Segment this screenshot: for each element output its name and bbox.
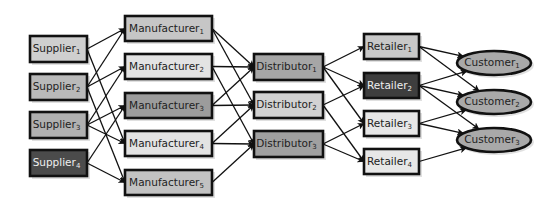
node-label: Retailer4 bbox=[367, 155, 412, 169]
supply-chain-diagram: Supplier1Supplier2Supplier3Supplier4Manu… bbox=[0, 0, 560, 209]
node-label: Customer3 bbox=[464, 133, 519, 147]
edge-s1-to-m1 bbox=[87, 29, 125, 50]
edge-r3-to-c3 bbox=[419, 124, 463, 134]
node-retailer-2: Retailer2 bbox=[364, 73, 422, 101]
edge-m4-to-d3 bbox=[212, 144, 254, 145]
nodes-layer: Supplier1Supplier2Supplier3Supplier4Manu… bbox=[30, 16, 534, 198]
node-supplier-1: Supplier1 bbox=[30, 36, 90, 65]
node-label: Distributor3 bbox=[256, 137, 316, 151]
edge-d2-to-r2 bbox=[323, 86, 364, 106]
node-label: Supplier2 bbox=[33, 80, 81, 94]
node-label: Manufacturer5 bbox=[129, 176, 204, 190]
node-label: Retailer2 bbox=[367, 79, 412, 93]
edge-r3-to-c2 bbox=[419, 110, 466, 124]
edge-s2-to-m1 bbox=[87, 29, 125, 88]
node-label: Supplier4 bbox=[33, 156, 81, 170]
node-customer-2: Customer2 bbox=[457, 90, 534, 117]
node-manufacturer-1: Manufacturer1 bbox=[125, 16, 215, 44]
edge-m1-to-d1 bbox=[212, 29, 254, 68]
node-distributor-3: Distributor3 bbox=[254, 131, 326, 160]
node-manufacturer-4: Manufacturer4 bbox=[125, 131, 215, 159]
edge-m3-to-d2 bbox=[212, 105, 254, 106]
node-label: Distributor1 bbox=[256, 60, 316, 74]
node-supplier-4: Supplier4 bbox=[30, 150, 90, 179]
node-distributor-2: Distributor2 bbox=[254, 92, 326, 121]
edge-s4-to-m3 bbox=[87, 106, 125, 164]
node-retailer-4: Retailer4 bbox=[364, 149, 422, 177]
node-supplier-2: Supplier2 bbox=[30, 74, 90, 103]
edge-m3-to-d1 bbox=[212, 67, 254, 106]
node-distributor-1: Distributor1 bbox=[254, 54, 326, 83]
node-label: Customer2 bbox=[464, 95, 519, 109]
node-label: Supplier3 bbox=[33, 118, 81, 132]
node-manufacturer-3: Manufacturer3 bbox=[125, 93, 215, 121]
node-label: Distributor2 bbox=[256, 98, 316, 112]
edge-s2-to-m2 bbox=[87, 67, 125, 88]
edge-d1-to-r1 bbox=[323, 47, 364, 68]
node-retailer-1: Retailer1 bbox=[364, 34, 422, 62]
node-customer-3: Customer3 bbox=[457, 128, 534, 155]
edge-r2-to-c1 bbox=[419, 71, 467, 85]
edge-s3-to-m2 bbox=[87, 67, 125, 126]
node-label: Manufacturer1 bbox=[129, 22, 204, 36]
node-customer-1: Customer1 bbox=[457, 51, 534, 78]
node-manufacturer-5: Manufacturer5 bbox=[125, 170, 215, 198]
node-retailer-3: Retailer3 bbox=[364, 111, 422, 139]
node-label: Retailer1 bbox=[367, 40, 412, 54]
node-manufacturer-2: Manufacturer2 bbox=[125, 54, 215, 82]
node-label: Manufacturer2 bbox=[129, 60, 204, 74]
edge-m5-to-d3 bbox=[212, 144, 254, 183]
node-label: Manufacturer3 bbox=[129, 99, 204, 113]
node-label: Manufacturer4 bbox=[129, 137, 204, 151]
edge-m2-to-d1 bbox=[212, 67, 254, 68]
node-label: Customer1 bbox=[464, 56, 519, 70]
node-supplier-3: Supplier3 bbox=[30, 112, 90, 141]
edge-m4-to-d2 bbox=[212, 105, 254, 144]
edge-s4-to-m5 bbox=[87, 163, 125, 183]
node-label: Retailer3 bbox=[367, 117, 412, 131]
edge-d3-to-r3 bbox=[323, 124, 364, 145]
node-label: Supplier1 bbox=[33, 42, 81, 56]
edge-r4-to-c3 bbox=[419, 148, 466, 162]
